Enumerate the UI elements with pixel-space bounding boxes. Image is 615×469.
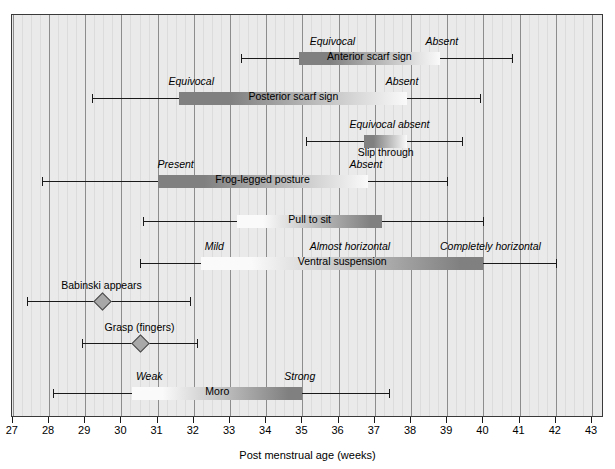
gridline-major xyxy=(556,15,557,416)
point-marker-diamond xyxy=(93,292,111,310)
range-cap-end xyxy=(447,177,448,186)
gridline-minor xyxy=(574,15,575,416)
stage-label: Completely horizontal xyxy=(440,241,541,252)
range-cap-end xyxy=(389,389,390,398)
stage-label: Almost horizontal xyxy=(310,241,391,252)
gridline-major xyxy=(520,15,521,416)
gridline-minor xyxy=(67,15,68,416)
gridline-minor xyxy=(130,15,131,416)
axis-tick xyxy=(265,417,266,423)
axis-tick-label: 40 xyxy=(476,424,488,436)
range-cap-end xyxy=(512,54,513,63)
gridline-major xyxy=(13,15,14,416)
gridline-minor xyxy=(103,15,104,416)
row-label: Moro xyxy=(205,386,229,397)
row-label: Babinski appears xyxy=(61,280,142,291)
axis-tick-label: 39 xyxy=(440,424,452,436)
gridline-minor xyxy=(529,15,530,416)
stage-label: Equivocal xyxy=(310,36,356,47)
axis-tick xyxy=(482,417,483,423)
gridline-minor xyxy=(465,15,466,416)
axis-tick xyxy=(193,417,194,423)
gridline-minor xyxy=(76,15,77,416)
axis-tick-label: 31 xyxy=(150,424,162,436)
chart-figure: Anterior scarf signEquivocalAbsentPoster… xyxy=(0,0,615,469)
row-label: Anterior scarf sign xyxy=(327,51,412,62)
gridline-minor xyxy=(492,15,493,416)
gridline-major xyxy=(49,15,50,416)
gridline-major xyxy=(158,15,159,416)
axis-tick-label: 30 xyxy=(114,424,126,436)
axis-tick xyxy=(12,417,13,423)
range-cap-end xyxy=(462,137,463,146)
stage-label: Absent xyxy=(349,159,382,170)
gridline-major xyxy=(483,15,484,416)
axis-tick xyxy=(519,417,520,423)
gridline-minor xyxy=(94,15,95,416)
axis-tick xyxy=(157,417,158,423)
gridline-minor xyxy=(456,15,457,416)
axis-tick xyxy=(555,417,556,423)
gridline-minor xyxy=(502,15,503,416)
gridline-minor xyxy=(438,15,439,416)
axis-tick-label: 33 xyxy=(223,424,235,436)
axis-tick xyxy=(338,417,339,423)
range-cap-start xyxy=(143,217,144,226)
row-label: Ventral suspension xyxy=(298,256,387,267)
axis-tick xyxy=(410,417,411,423)
range-cap-start xyxy=(42,177,43,186)
axis-tick-label: 38 xyxy=(404,424,416,436)
axis-tick-label: 32 xyxy=(187,424,199,436)
axis-tick-label: 37 xyxy=(368,424,380,436)
gridline-minor xyxy=(31,15,32,416)
axis-tick-label: 28 xyxy=(42,424,54,436)
range-cap-end xyxy=(556,259,557,268)
range-cap-start xyxy=(241,54,242,63)
axis-tick xyxy=(229,417,230,423)
range-cap-end xyxy=(483,217,484,226)
gridline-major xyxy=(121,15,122,416)
range-cap-start xyxy=(53,389,54,398)
axis-tick xyxy=(446,417,447,423)
range-cap-start xyxy=(27,297,28,306)
axis-tick xyxy=(120,417,121,423)
gridline-major xyxy=(592,15,593,416)
gridline-major xyxy=(230,15,231,416)
point-marker-diamond xyxy=(131,334,149,352)
stage-label: Present xyxy=(158,159,194,170)
axis-tick-label: 34 xyxy=(259,424,271,436)
range-cap-end xyxy=(480,94,481,103)
row-label: Slip through xyxy=(358,147,414,158)
gridline-minor xyxy=(511,15,512,416)
stage-label: Absent xyxy=(386,76,419,87)
range-cap-start xyxy=(140,259,141,268)
x-axis-ticks: 2728293031323334353637383940414243 xyxy=(0,417,615,427)
gridline-major xyxy=(447,15,448,416)
gridline-minor xyxy=(420,15,421,416)
axis-tick xyxy=(301,417,302,423)
axis-tick-label: 35 xyxy=(295,424,307,436)
axis-tick-label: 36 xyxy=(331,424,343,436)
stage-label: Weak xyxy=(136,371,163,382)
range-cap-start xyxy=(82,339,83,348)
row-label: Grasp (fingers) xyxy=(104,322,174,333)
gridline-minor xyxy=(221,15,222,416)
gridline-minor xyxy=(140,15,141,416)
gridline-minor xyxy=(565,15,566,416)
gridline-minor xyxy=(22,15,23,416)
axis-tick-label: 41 xyxy=(512,424,524,436)
gridline-minor xyxy=(429,15,430,416)
stage-label: Absent xyxy=(425,36,458,47)
gridline-minor xyxy=(547,15,548,416)
range-cap-end xyxy=(190,297,191,306)
x-axis-label: Post menstrual age (weeks) xyxy=(0,449,615,461)
axis-tick-label: 42 xyxy=(549,424,561,436)
range-cap-start xyxy=(92,94,93,103)
gridline-minor xyxy=(538,15,539,416)
gridline-minor xyxy=(112,15,113,416)
stage-label: Equivocal xyxy=(168,76,214,87)
axis-tick xyxy=(374,417,375,423)
range-cap-start xyxy=(306,137,307,146)
stage-label: Strong xyxy=(284,371,315,382)
axis-tick xyxy=(591,417,592,423)
